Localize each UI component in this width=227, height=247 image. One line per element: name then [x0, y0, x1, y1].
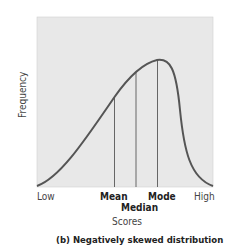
chart-caption: (b) Negatively skewed distribution: [56, 234, 223, 245]
x-tick-high: High: [194, 191, 215, 202]
y-axis-label: Frequency: [17, 71, 28, 118]
x-axis-label: Scores: [112, 216, 142, 227]
x-tick-mean: Mean: [100, 191, 128, 202]
plot-area: [37, 17, 213, 187]
chart: Frequency Low Mean Mode High Median Scor…: [0, 0, 227, 247]
x-tick-mode: Mode: [148, 191, 176, 202]
x-tick-median: Median: [121, 202, 158, 213]
x-tick-low: Low: [37, 191, 55, 202]
